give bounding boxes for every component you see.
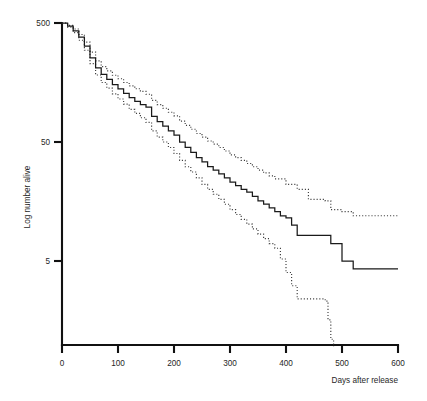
x-tick-label-400: 400 — [279, 359, 293, 368]
data-curves-group — [62, 23, 398, 347]
x-tick-label-600: 600 — [391, 359, 405, 368]
x-tick-group: 0 100 200 300 400 500 600 — [60, 345, 406, 368]
x-axis-title: Days after release — [332, 376, 399, 385]
y-tick-label-500: 500 — [36, 19, 50, 28]
chart-plot-area: 500 50 5 0 100 200 300 400 500 600 — [0, 0, 427, 401]
x-tick-label-500: 500 — [335, 359, 349, 368]
x-tick-label-0: 0 — [60, 359, 65, 368]
x-tick-label-200: 200 — [167, 359, 181, 368]
x-tick-label-300: 300 — [223, 359, 237, 368]
x-tick-label-100: 100 — [111, 359, 125, 368]
y-tick-label-50: 50 — [41, 138, 51, 147]
survival-curve — [62, 23, 398, 269]
lower-confidence-curve — [62, 23, 334, 347]
y-tick-group: 500 50 5 — [36, 19, 62, 266]
survival-chart-figure: 500 50 5 0 100 200 300 400 500 600 — [0, 0, 427, 401]
axes-group — [62, 23, 398, 345]
y-axis-title: Log number alive — [23, 165, 32, 228]
upper-confidence-curve — [62, 23, 398, 216]
y-tick-label-5: 5 — [45, 257, 50, 266]
